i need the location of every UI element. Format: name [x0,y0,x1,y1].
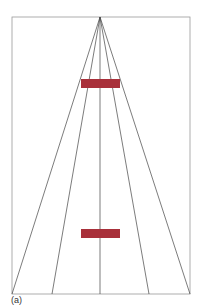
converging-lines [12,17,190,294]
figure-label: (a) [11,295,22,305]
frame [12,17,190,294]
lower-bar [81,229,120,238]
upper-bar [81,79,120,88]
ponzo-illusion-figure [0,0,199,308]
